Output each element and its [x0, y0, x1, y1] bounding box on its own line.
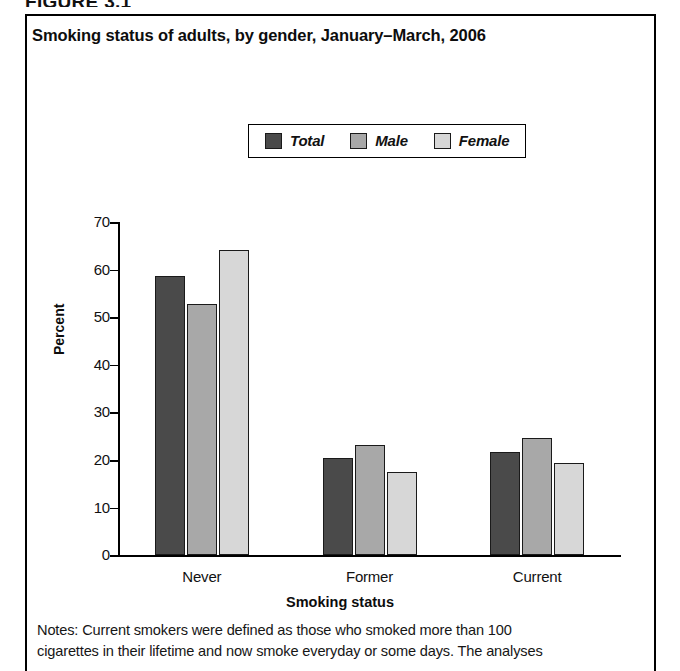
y-tick-label-20: 20 — [94, 451, 110, 468]
y-tick-label-10: 10 — [94, 499, 110, 516]
bar-current-female — [554, 463, 584, 555]
y-tick-label-40: 40 — [94, 356, 110, 373]
y-axis-title: Percent — [51, 304, 67, 355]
x-tick-label-never: Never — [125, 568, 279, 585]
legend-swatch-male — [350, 133, 367, 149]
bar-never-male — [187, 304, 217, 555]
legend-item-female: Female — [434, 132, 510, 149]
y-axis-line — [118, 222, 120, 557]
chart-legend: TotalMaleFemale — [248, 124, 526, 158]
legend-item-total: Total — [265, 132, 324, 149]
bar-current-total — [490, 452, 520, 555]
bar-group-former — [323, 222, 417, 555]
notes-line-2: cigarettes in their lifetime and now smo… — [37, 641, 637, 662]
y-tick-mark-30 — [110, 412, 118, 414]
y-tick-mark-0 — [110, 555, 118, 557]
y-tick-label-30: 30 — [94, 403, 110, 420]
y-tick-mark-60 — [110, 270, 118, 272]
bar-group-never — [155, 222, 249, 555]
bar-never-female — [219, 250, 249, 555]
figure-notes: Notes: Current smokers were defined as t… — [37, 620, 637, 662]
figure-number-header: FIGURE 3.1 — [25, 0, 131, 7]
y-tick-label-50: 50 — [94, 308, 110, 325]
chart-title: Smoking status of adults, by gender, Jan… — [32, 26, 486, 45]
legend-item-male: Male — [350, 132, 408, 149]
y-tick-mark-50 — [110, 317, 118, 319]
legend-label-male: Male — [375, 132, 408, 149]
y-tick-label-70: 70 — [94, 213, 110, 230]
y-tick-mark-10 — [110, 508, 118, 510]
bar-never-total — [155, 276, 185, 555]
legend-swatch-female — [434, 133, 451, 149]
y-tick-mark-20 — [110, 460, 118, 462]
legend-label-total: Total — [290, 132, 324, 149]
bar-group-current — [490, 222, 584, 555]
y-tick-label-60: 60 — [94, 261, 110, 278]
x-tick-label-former: Former — [293, 568, 447, 585]
x-tick-label-current: Current — [460, 568, 614, 585]
bar-former-total — [323, 458, 353, 556]
bar-former-female — [387, 472, 417, 555]
bar-current-male — [522, 438, 552, 555]
legend-swatch-total — [265, 133, 282, 149]
legend-label-female: Female — [459, 132, 510, 149]
bar-former-male — [355, 445, 385, 555]
plot-area — [118, 222, 621, 557]
y-tick-mark-40 — [110, 365, 118, 367]
y-axis-tick-labels: 706050403020100 — [74, 222, 110, 557]
notes-line-1: Notes: Current smokers were defined as t… — [37, 620, 637, 641]
y-tick-mark-70 — [110, 222, 118, 224]
x-axis-title: Smoking status — [0, 594, 680, 610]
x-axis-line — [118, 555, 621, 557]
y-tick-label-0: 0 — [102, 546, 110, 563]
